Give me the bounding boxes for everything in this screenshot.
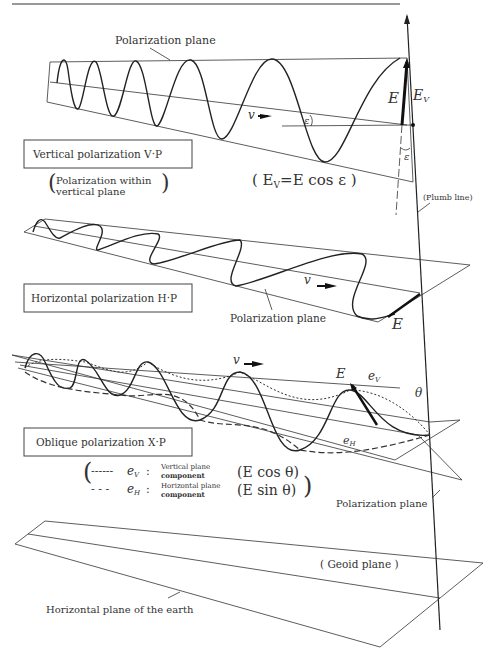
svg-text::: : bbox=[146, 465, 150, 478]
horizontal-plane-label: Polarization plane bbox=[230, 312, 326, 324]
oblique-plane-label: Polarization plane bbox=[336, 498, 428, 509]
svg-text:- - -: - - - bbox=[91, 483, 109, 496]
horizontal-earth-plane-label: Horizontal plane of the earth bbox=[46, 604, 194, 615]
oblique-polarization-group bbox=[12, 354, 462, 480]
oblique-title: Oblique polarization X·P bbox=[36, 436, 166, 448]
e-vector-label: E bbox=[387, 89, 399, 107]
oblique-legend: ( ------ eV : Vertical plane component (… bbox=[83, 458, 312, 500]
velocity-label-h: v bbox=[304, 273, 311, 287]
svg-text:eV: eV bbox=[127, 464, 140, 479]
ev-component-label: eV bbox=[368, 369, 381, 384]
epsilon-label: ε bbox=[304, 115, 309, 126]
svg-text:): ) bbox=[303, 472, 312, 500]
svg-text:(: ( bbox=[48, 170, 57, 195]
plumb-arrow-icon bbox=[404, 14, 410, 24]
velocity-label-x: v bbox=[233, 353, 240, 367]
svg-text:Horizontal plane: Horizontal plane bbox=[161, 482, 220, 490]
vertical-formula: ( EV=E cos ε ) bbox=[252, 171, 357, 190]
svg-text::: : bbox=[146, 483, 150, 496]
plumb-line-label: (Plumb line) bbox=[423, 193, 473, 202]
svg-text:eH: eH bbox=[127, 482, 141, 497]
vertical-subtitle-2: vertical plane bbox=[55, 186, 126, 197]
svg-text:component: component bbox=[161, 471, 206, 480]
svg-text:component: component bbox=[161, 490, 206, 499]
polarization-diagram: Polarization plane v ε ε E EV ( EV=E cos… bbox=[0, 0, 496, 657]
horizontal-polarization-group bbox=[24, 219, 470, 322]
epsilon-label-2: ε bbox=[404, 151, 409, 162]
velocity-label: v bbox=[248, 108, 255, 122]
e-vector-label-x: E bbox=[335, 366, 346, 381]
e-vector-label-h: E bbox=[391, 315, 403, 333]
earth-planes-group bbox=[15, 521, 483, 647]
svg-text:------: ------ bbox=[91, 465, 114, 478]
ev-label: EV bbox=[412, 87, 430, 104]
svg-text:(E sin θ): (E sin θ) bbox=[237, 482, 296, 498]
svg-text:Vertical plane: Vertical plane bbox=[160, 463, 210, 471]
eh-component-label: eH bbox=[343, 434, 357, 448]
svg-text:): ) bbox=[161, 170, 170, 195]
svg-text:(E cos θ): (E cos θ) bbox=[237, 464, 299, 480]
vertical-plane-label: Polarization plane bbox=[115, 34, 216, 47]
vertical-title: Vertical polarization V·P bbox=[32, 148, 162, 160]
geoid-plane-label: ( Geoid plane ) bbox=[320, 558, 399, 570]
theta-label: θ bbox=[415, 386, 423, 400]
horizontal-title: Horizontal polarization H·P bbox=[31, 292, 177, 304]
vertical-subtitle-1: Polarization within bbox=[56, 175, 152, 186]
plumb-line bbox=[407, 16, 440, 630]
